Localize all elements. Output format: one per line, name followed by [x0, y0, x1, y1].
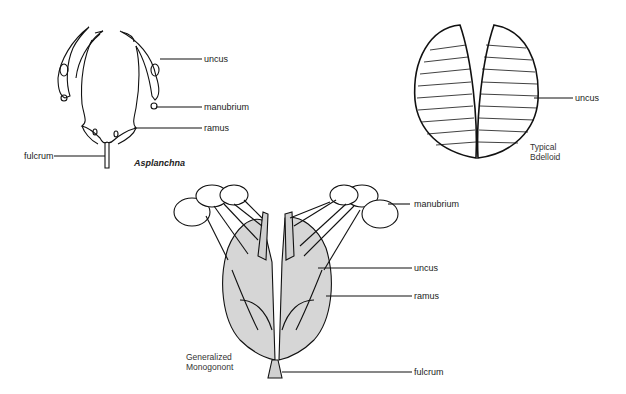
- diagram-canvas: [0, 0, 626, 394]
- caption-bdelloid-line1: Typical: [530, 142, 556, 152]
- caption-asplanchna: Asplanchna: [134, 158, 185, 168]
- caption-monogonont-line2: Monogonont: [186, 362, 233, 372]
- bdelloid-trophi: [415, 25, 573, 158]
- asplanchna-trophi: [54, 27, 202, 168]
- label-uncus-bdelloid: uncus: [575, 93, 599, 103]
- label-uncus-monogonont: uncus: [414, 263, 438, 273]
- monogonont-trophi: [174, 185, 412, 378]
- label-ramus-monogonont: ramus: [414, 291, 439, 301]
- caption-bdelloid-line2: Bdelloid: [530, 152, 560, 162]
- label-ramus-asplanchna: ramus: [204, 123, 229, 133]
- label-manubrium-monogonont: manubrium: [414, 199, 459, 209]
- label-fulcrum-monogonont: fulcrum: [414, 367, 444, 377]
- label-manubrium-asplanchna: manubrium: [204, 102, 249, 112]
- label-fulcrum-asplanchna: fulcrum: [24, 151, 54, 161]
- caption-monogonont-line1: Generalized: [186, 352, 232, 362]
- label-uncus-asplanchna: uncus: [204, 54, 228, 64]
